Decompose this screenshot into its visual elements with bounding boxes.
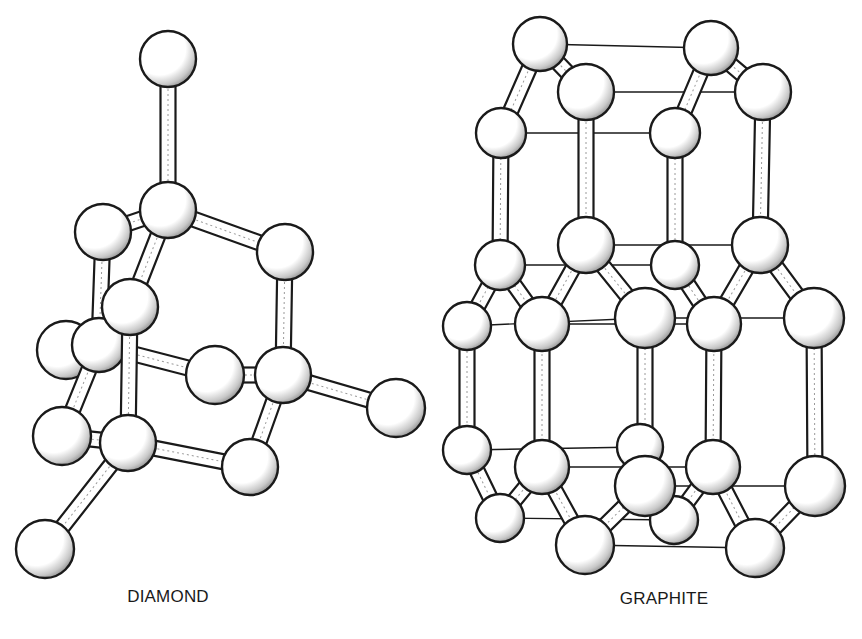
carbon-atom	[726, 519, 784, 577]
carbon-atom	[476, 494, 524, 542]
carbon-atom	[443, 426, 491, 474]
carbon-atom	[16, 520, 74, 578]
carbon-atom	[33, 407, 91, 465]
carbon-atom	[257, 224, 313, 280]
carbon-atom	[684, 21, 738, 75]
graphite-label: GRAPHITE	[620, 589, 709, 609]
carbon-atom	[140, 182, 196, 238]
crystal-structures-illustration	[0, 0, 862, 639]
carbon-atom	[476, 108, 526, 158]
carbon-atom	[186, 346, 244, 404]
carbon-atom	[615, 288, 675, 348]
carbon-atom	[513, 17, 567, 71]
carbon-atom	[686, 440, 740, 494]
carbon-atom	[615, 456, 675, 516]
carbon-atom	[651, 241, 699, 289]
carbon-atom	[735, 64, 791, 120]
carbon-atom	[443, 302, 491, 350]
carbon-atom	[100, 415, 156, 471]
carbon-atom	[785, 456, 845, 516]
graphite-structure	[443, 17, 845, 577]
carbon-atom	[558, 64, 614, 120]
carbon-atom	[140, 31, 196, 87]
carbon-atom	[650, 108, 700, 158]
diamond-structure	[16, 31, 425, 578]
carbon-atom	[556, 516, 614, 574]
carbon-atom	[558, 217, 614, 273]
carbon-atom	[255, 347, 311, 403]
carbon-atom	[102, 279, 158, 335]
carbon-atom	[515, 440, 569, 494]
diamond-label: DIAMOND	[127, 587, 209, 607]
carbon-atom	[687, 297, 741, 351]
carbon-atom	[222, 439, 278, 495]
figure-canvas: DIAMOND GRAPHITE	[0, 0, 862, 639]
carbon-atom	[732, 217, 788, 273]
carbon-atom	[367, 379, 425, 437]
carbon-atom	[475, 240, 525, 290]
carbon-atom	[784, 288, 844, 348]
carbon-atom	[75, 204, 131, 260]
carbon-atom	[515, 297, 569, 351]
